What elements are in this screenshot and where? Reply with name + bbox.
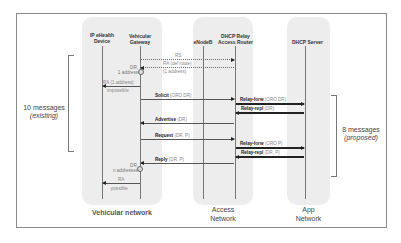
- brace-existing: [68, 55, 74, 152]
- message-ra-possible: [103, 183, 140, 184]
- message-request-name: Request: [155, 133, 173, 138]
- note-dr-n-addresses: DR, n addresses: [103, 163, 138, 173]
- timer-icon: [138, 69, 144, 75]
- zone-app-network: [287, 17, 330, 205]
- zone-label-access: Access Network: [193, 205, 253, 223]
- annotation-existing-line2-text: (existing): [30, 112, 58, 119]
- message-reply: [141, 163, 234, 164]
- annotation-proposed-line2-text: (proposed): [344, 134, 378, 141]
- annotation-proposed-line1: 8 messages: [338, 126, 384, 134]
- message-relay-forw-1-name: Relay-forw: [240, 97, 264, 102]
- message-relay-repl-2: [236, 156, 304, 158]
- entity-gateway-line2: Gateway: [120, 39, 160, 45]
- zone-access-network: [193, 17, 253, 205]
- zone-label-access-line1: Access: [193, 205, 253, 214]
- entity-device-line2: Device: [82, 38, 122, 44]
- message-relay-repl-1: [236, 112, 304, 114]
- message-relay-repl-2-name: Relay-repl: [241, 150, 263, 155]
- message-advertise: [141, 123, 234, 124]
- message-reply-params: (DR, P): [169, 157, 184, 162]
- message-relay-forw-1-label: Relay-forw (ORO DR): [240, 97, 286, 102]
- zone-label-vehicular: Vehicular network: [82, 209, 162, 216]
- message-request-label: Request (DR, P): [155, 133, 190, 138]
- zone-label-app-line2: Network: [287, 214, 330, 223]
- message-reply-name: Reply: [155, 157, 168, 162]
- message-ra-1-address: [103, 86, 140, 87]
- note-dr2-line2: n addresses: [103, 168, 138, 173]
- zone-label-app-line1: App: [287, 205, 330, 214]
- brace-proposed: [331, 95, 337, 177]
- message-rs: [141, 59, 234, 60]
- note-dr-1-address: DR, 1 address: [108, 65, 138, 75]
- message-ra-possible-line2: possible: [111, 186, 128, 191]
- message-ra-def-route: [141, 67, 234, 68]
- entity-dhcp-relay: DHCP Relay Access Router: [213, 33, 258, 45]
- lifeline-server: [305, 46, 306, 199]
- message-ra-def-route-label: RA (def route): [163, 61, 192, 66]
- annotation-existing: 10 messages (existing): [20, 104, 68, 120]
- message-relay-forw-2-label: Relay-forw (ORO P): [240, 141, 283, 146]
- annotation-existing-line1: 10 messages: [20, 104, 68, 112]
- message-relay-forw-1-params: (ORO DR): [265, 97, 286, 102]
- annotation-proposed-line2: (proposed): [338, 134, 384, 142]
- message-relay-repl-1-params: (DR): [265, 106, 275, 111]
- message-ra-1-address-label: RA (1 address): [103, 80, 134, 85]
- annotation-proposed: 8 messages (proposed): [338, 126, 384, 142]
- message-ra-possible-label: RA: [118, 177, 124, 182]
- message-advertise-params: (DR): [177, 117, 187, 122]
- message-reply-label: Reply (DR, P): [155, 157, 184, 162]
- message-advertise-label: Advertise (DR): [155, 117, 187, 122]
- message-relay-forw-1: [236, 103, 304, 105]
- zone-label-access-line2: Network: [193, 214, 253, 223]
- lifeline-device: [102, 46, 103, 199]
- message-relay-repl-2-label: Relay-repl (DR, P): [241, 150, 280, 155]
- message-relay-forw-2: [236, 147, 304, 149]
- message-relay-forw-2-name: Relay-forw: [240, 141, 264, 146]
- message-relay-forw-2-params: (ORO P): [265, 141, 283, 146]
- message-rs-label: RS: [175, 53, 181, 58]
- zone-label-app: App Network: [287, 205, 330, 223]
- entity-ip-ehealth-device: IP eHealth Device: [82, 32, 122, 44]
- annotation-existing-line2: (existing): [20, 112, 68, 120]
- message-ra-1-address-line2: impossible: [107, 88, 129, 93]
- lifeline-relay: [235, 46, 236, 199]
- message-solicit-label: Solicit (ORO DR): [155, 93, 192, 98]
- message-request: [141, 139, 234, 140]
- message-solicit: [141, 99, 234, 100]
- message-solicit-name: Solicit: [155, 93, 169, 98]
- message-ra-def-route-line2: (1 address): [163, 69, 186, 74]
- message-solicit-params: (ORO DR): [170, 93, 191, 98]
- entity-dhcp-server: DHCP Server: [285, 39, 330, 45]
- timer-icon-2: [137, 166, 143, 172]
- message-relay-repl-1-name: Relay-repl: [241, 106, 263, 111]
- note-dr1-line2: 1 address: [108, 70, 138, 75]
- entity-server-line1: DHCP Server: [285, 39, 330, 45]
- entity-relay-line2: Access Router: [213, 39, 258, 45]
- message-relay-repl-2-params: (DR, P): [265, 150, 280, 155]
- message-advertise-name: Advertise: [155, 117, 176, 122]
- entity-vehicular-gateway: Vehicular Gateway: [120, 33, 160, 45]
- message-request-params: (DR, P): [174, 133, 189, 138]
- message-relay-repl-1-label: Relay-repl (DR): [241, 106, 274, 111]
